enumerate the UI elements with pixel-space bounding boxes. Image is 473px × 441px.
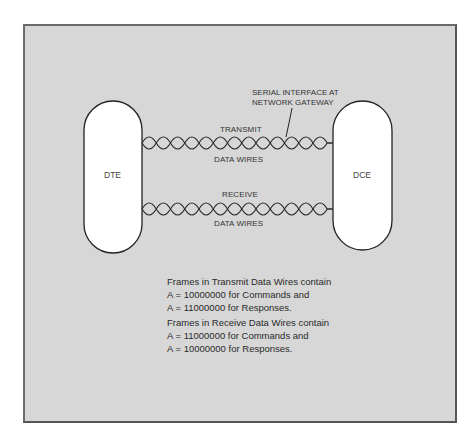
transmit-notes: Frames in Transmit Data Wires contain A …	[167, 275, 331, 314]
transmit-label: TRANSMIT	[220, 125, 262, 134]
receive-label: RECEIVE	[222, 190, 258, 199]
serial-interface-callout: SERIAL INTERFACE AT NETWORK GATEWAY	[252, 88, 339, 108]
receive-twisted-pair	[142, 203, 333, 215]
transmit-note-line: Frames in Transmit Data Wires contain	[167, 275, 331, 288]
receive-note-line: Frames in Receive Data Wires contain	[167, 316, 329, 329]
receive-note-line: A = 10000000 for Responses.	[167, 342, 329, 355]
callout-line-2: NETWORK GATEWAY	[252, 98, 339, 108]
transmit-twisted-pair	[142, 137, 333, 149]
dte-label: DTE	[104, 170, 121, 180]
transmit-note-line: A = 10000000 for Commands and	[167, 288, 331, 301]
receive-data-wires-label: DATA WIRES	[214, 219, 263, 228]
receive-note-line: A = 11000000 for Commands and	[167, 329, 329, 342]
callout-line-1: SERIAL INTERFACE AT	[252, 88, 339, 98]
transmit-data-wires-label: DATA WIRES	[214, 155, 263, 164]
transmit-note-line: A = 11000000 for Responses.	[167, 301, 331, 314]
receive-notes: Frames in Receive Data Wires contain A =…	[167, 316, 329, 355]
dce-label: DCE	[353, 170, 371, 180]
callout-leader-line	[286, 108, 292, 137]
